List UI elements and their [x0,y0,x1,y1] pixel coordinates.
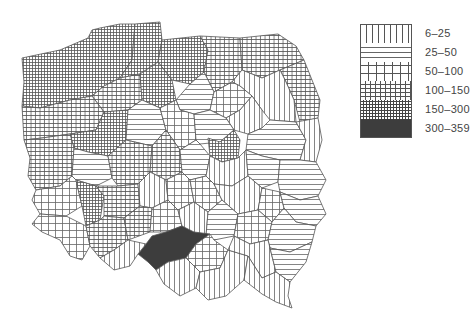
legend-label: 25–50 [425,46,457,58]
legend-label: 100–150 [425,84,470,96]
legend-swatch-coarse-grid [360,62,412,81]
country-regions [22,22,326,308]
legend-label: 6–25 [425,27,451,39]
legend-swatch-horizontal-lines [360,43,412,62]
legend-swatch-vertical-lines [360,24,412,43]
region-sw-4 [32,214,90,260]
legend-label: 300–359 [425,122,470,134]
legend-label: 50–100 [425,65,464,77]
legend-swatch-solid [360,119,412,138]
legend-label: 150–300 [425,103,470,115]
legend-swatch-medium-grid [360,81,412,100]
legend-swatch-fine-grid [360,100,412,119]
